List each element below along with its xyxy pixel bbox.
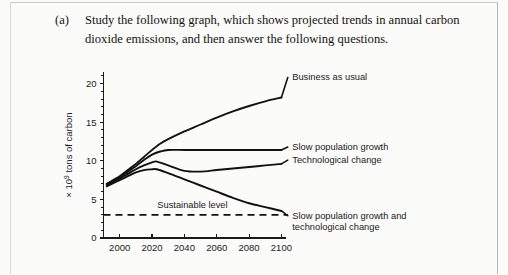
x-tick-label-2080: 2080 xyxy=(238,242,259,253)
series-label-1: Slow population growth xyxy=(292,142,388,152)
question-text: Study the following graph, which shows p… xyxy=(85,11,475,49)
y-axis-title: × 109 tons of carbon xyxy=(63,112,74,197)
y-tick-label-10: 10 xyxy=(86,155,97,166)
x-axis-major-ticks xyxy=(120,234,282,239)
x-tick-label-2060: 2060 xyxy=(206,242,227,253)
y-tick-label-0: 0 xyxy=(91,232,96,243)
x-tick-label-2020: 2020 xyxy=(141,242,162,253)
y-axis-minor-ticks xyxy=(101,76,103,230)
question-row: (a) Study the following graph, which sho… xyxy=(55,11,475,49)
series-leader-1 xyxy=(281,147,287,150)
x-tick-label-2040: 2040 xyxy=(174,242,195,253)
x-tick-label-2100: 2100 xyxy=(271,242,292,253)
series-curves xyxy=(107,97,282,211)
series-label-3: Slow population growth andtechnological … xyxy=(292,211,406,232)
page-rule-top xyxy=(10,2,498,3)
y-axis-title-prefix: × 10 xyxy=(63,179,74,198)
y-axis-title-text: × 109 tons of carbon xyxy=(63,112,74,197)
chart-svg: 05101520 200020202040206020802100 × 109 … xyxy=(0,55,508,275)
question-marker: (a) xyxy=(55,11,85,30)
series-leader-lines xyxy=(281,77,287,215)
y-tick-label-5: 5 xyxy=(91,194,96,205)
figure-carbon-emissions: 05101520 200020202040206020802100 × 109 … xyxy=(0,55,508,275)
series-leader-0 xyxy=(281,77,287,97)
y-axis-title-suffix: tons of carbon xyxy=(63,112,74,175)
annotation-sustainable-level: Sustainable level xyxy=(157,200,227,210)
y-tick-label-15: 15 xyxy=(86,117,97,128)
y-tick-label-20: 20 xyxy=(86,78,97,89)
chart-axes xyxy=(100,72,287,238)
y-axis-tick-labels: 05101520 xyxy=(86,78,97,243)
series-leader-2 xyxy=(281,160,287,164)
series-label-3-line1: Slow population growth and xyxy=(292,211,406,221)
series-label-2: Technological change xyxy=(292,155,381,165)
series-labels: Business as usualSlow population growthT… xyxy=(292,72,406,231)
x-axis-tick-labels: 200020202040206020802100 xyxy=(109,242,292,253)
x-tick-label-2000: 2000 xyxy=(109,242,130,253)
series-label-3-line2: technological change xyxy=(292,222,379,232)
chart-annotations: Sustainable level xyxy=(157,200,227,210)
question-block: (a) Study the following graph, which sho… xyxy=(55,11,475,49)
page-canvas: (a) Study the following graph, which sho… xyxy=(0,0,508,275)
series-label-0: Business as usual xyxy=(292,72,367,82)
